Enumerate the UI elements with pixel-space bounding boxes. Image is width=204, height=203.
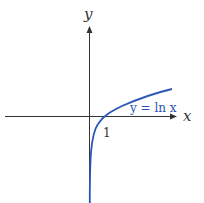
curve-label: y = ln x [129,101,177,115]
x-axis-label: x [183,107,192,125]
ln-graph: x y 1 y = ln x [0,0,204,203]
tick-label-1: 1 [103,126,111,140]
y-axis-label: y [83,5,93,23]
graph-canvas: x y 1 y = ln x [0,0,204,203]
